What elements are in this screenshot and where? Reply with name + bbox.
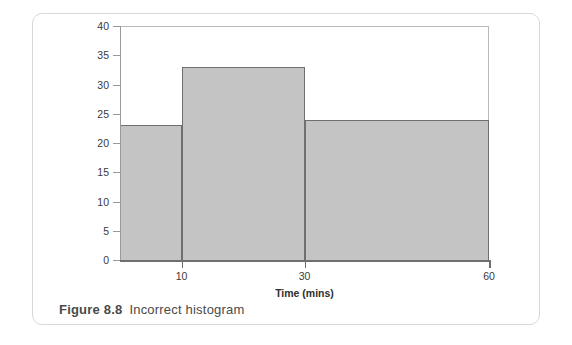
y-tick-label: 40	[51, 20, 109, 32]
y-axis-line	[120, 26, 121, 260]
figure-caption-text: Incorrect histogram	[129, 302, 244, 317]
y-tick-label: 0	[51, 254, 109, 266]
histogram-bar	[120, 125, 182, 260]
x-tick-mark	[305, 260, 307, 268]
y-tick-label: 5	[51, 225, 109, 237]
y-tick-mark	[113, 26, 120, 27]
y-tick-mark	[113, 260, 120, 261]
figure-caption-number: Figure 8.8	[59, 302, 122, 317]
y-tick-label: 25	[51, 108, 109, 120]
histogram-bar	[182, 67, 305, 260]
y-tick-label: 20	[51, 137, 109, 149]
x-tick-label: 30	[299, 270, 311, 282]
x-tick-label: 10	[176, 270, 188, 282]
y-tick-mark	[113, 55, 120, 56]
y-tick-label: 30	[51, 79, 109, 91]
y-tick-mark	[113, 172, 120, 173]
bars-layer	[120, 26, 489, 260]
y-tick-mark	[113, 85, 120, 86]
y-tick-label: 15	[51, 166, 109, 178]
x-axis-title: Time (mins)	[120, 287, 489, 299]
figure-card: 0510152025303540 103060 Time (mins) Figu…	[32, 13, 540, 325]
histogram-bar	[305, 120, 490, 260]
y-tick-label: 35	[51, 49, 109, 61]
x-tick-label: 60	[483, 270, 495, 282]
x-tick-mark	[489, 260, 491, 268]
y-tick-mark	[113, 143, 120, 144]
figure-caption: Figure 8.8Incorrect histogram	[59, 302, 244, 317]
histogram-chart: 0510152025303540 103060 Time (mins)	[33, 14, 541, 326]
x-tick-mark	[182, 260, 184, 268]
y-tick-mark	[113, 114, 120, 115]
y-tick-label: 10	[51, 196, 109, 208]
y-tick-mark	[113, 202, 120, 203]
y-tick-mark	[113, 231, 120, 232]
